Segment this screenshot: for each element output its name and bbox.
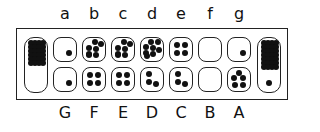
- seed-icon: [40, 60, 46, 66]
- seed-icon: [116, 80, 122, 86]
- seed-icon: [66, 50, 72, 56]
- seed-icon: [150, 51, 156, 57]
- seed-icon: [174, 42, 180, 48]
- bottom-pit-B: [198, 67, 222, 92]
- seed-icon: [124, 80, 130, 86]
- seed-icon: [156, 47, 162, 53]
- top-pit-c: [111, 37, 135, 62]
- seed-icon: [146, 71, 152, 77]
- bottom-pit-D: [140, 67, 164, 92]
- top-label-a: a: [55, 6, 75, 22]
- top-pit-e: [169, 37, 193, 62]
- top-label-e: e: [171, 6, 191, 22]
- seed-icon: [266, 80, 272, 86]
- top-pit-d: [140, 37, 164, 62]
- seed-icon: [155, 39, 161, 45]
- top-label-d: d: [142, 6, 162, 22]
- seed-icon: [127, 41, 133, 47]
- bottom-label-E: E: [113, 105, 133, 121]
- seed-icon: [273, 64, 279, 70]
- top-label-f: f: [200, 6, 220, 22]
- bottom-label-A: A: [229, 105, 249, 121]
- bottom-label-F: F: [84, 105, 104, 121]
- seed-icon: [122, 52, 128, 58]
- bottom-label-G: G: [55, 105, 75, 121]
- seed-icon: [182, 50, 188, 56]
- bottom-pit-F: [82, 67, 106, 92]
- seed-icon: [146, 79, 152, 85]
- top-label-b: b: [84, 6, 104, 22]
- seed-icon: [175, 71, 181, 77]
- seed-icon: [153, 81, 159, 87]
- seed-icon: [124, 72, 130, 78]
- seed-icon: [144, 53, 150, 59]
- bottom-label-D: D: [142, 105, 162, 121]
- bottom-pit-G: [53, 67, 77, 92]
- seed-icon: [86, 52, 92, 58]
- left-store: [24, 37, 48, 93]
- top-pit-a: [53, 37, 77, 62]
- bottom-label-C: C: [171, 105, 191, 121]
- right-store: [257, 37, 281, 93]
- seed-icon: [116, 72, 122, 78]
- bottom-pit-A: [227, 67, 251, 92]
- top-label-g: g: [229, 6, 249, 22]
- seed-icon: [66, 80, 72, 86]
- bottom-pit-E: [111, 67, 135, 92]
- seed-icon: [240, 75, 246, 81]
- seed-icon: [87, 72, 93, 78]
- seed-icon: [182, 42, 188, 48]
- seed-icon: [93, 52, 99, 58]
- top-pit-g: [227, 37, 251, 62]
- seed-icon: [175, 79, 181, 85]
- seed-icon: [174, 50, 180, 56]
- top-label-c: c: [113, 6, 133, 22]
- seed-icon: [232, 82, 238, 88]
- top-pit-b: [82, 37, 106, 62]
- seed-icon: [115, 52, 121, 58]
- seed-icon: [87, 80, 93, 86]
- seed-icon: [240, 82, 246, 88]
- seed-icon: [182, 81, 188, 87]
- bottom-pit-C: [169, 67, 193, 92]
- bottom-label-B: B: [200, 105, 220, 121]
- seed-icon: [95, 80, 101, 86]
- top-pit-f: [198, 37, 222, 62]
- seed-icon: [98, 41, 104, 47]
- seed-icon: [231, 75, 237, 81]
- seed-icon: [95, 72, 101, 78]
- seed-icon: [240, 50, 246, 56]
